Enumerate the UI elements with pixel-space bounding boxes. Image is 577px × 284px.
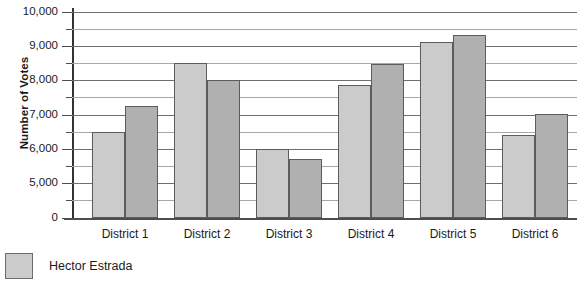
bar <box>502 135 535 218</box>
x-axis-category-label: District 5 <box>408 227 498 241</box>
y-axis-tick-label: 6,000 <box>0 143 58 155</box>
gridline <box>72 97 577 98</box>
y-axis-tick-label: 7,000 <box>0 109 58 121</box>
legend-label: Hector Estrada <box>49 259 132 273</box>
x-axis-category-label: District 6 <box>490 227 577 241</box>
bar <box>92 132 125 218</box>
y-axis-tick-label: 5,000 <box>0 177 58 189</box>
y-axis-tick-label: 8,000 <box>0 74 58 86</box>
x-axis-category-label: District 1 <box>80 227 170 241</box>
gridline <box>72 46 577 47</box>
bar <box>338 85 371 218</box>
bar-chart: Number of Votes 10,0009,0008,0007,0006,0… <box>0 0 577 284</box>
chart-legend: Hector Estrada <box>0 253 577 284</box>
bar <box>289 159 322 218</box>
bar <box>371 64 404 218</box>
bar <box>174 63 207 218</box>
x-axis-category-label: District 3 <box>244 227 334 241</box>
gridline <box>72 63 577 64</box>
x-axis-category-label: District 2 <box>162 227 252 241</box>
bar <box>420 42 453 218</box>
x-axis-category-label: District 4 <box>326 227 416 241</box>
y-axis-tick-label: 10,000 <box>0 6 58 18</box>
legend-swatch <box>5 253 33 279</box>
x-axis-baseline <box>64 218 577 220</box>
bar <box>453 35 486 218</box>
gridline <box>72 12 577 13</box>
bar <box>535 114 568 218</box>
plot-area <box>72 12 577 218</box>
bar <box>207 80 240 218</box>
legend-item: Hector Estrada <box>5 253 132 279</box>
gridline <box>72 80 577 81</box>
y-axis-tick-label: 9,000 <box>0 40 58 52</box>
bar <box>256 149 289 218</box>
gridline <box>72 29 577 30</box>
y-axis-tick-label: 0 <box>0 212 58 224</box>
bar <box>125 106 158 218</box>
